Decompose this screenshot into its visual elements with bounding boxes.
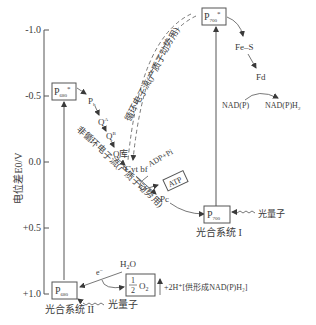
cyclic-flow-label: 循环电子流(产质子动势用): [122, 25, 181, 123]
tick-label: -0.5: [25, 90, 41, 101]
tick-label: +1.0: [23, 288, 41, 299]
p700-box: P700: [204, 206, 230, 223]
protons-label: +2H⁺[供形成NAD(P)H₂]: [164, 282, 248, 292]
p700-star-box: P700*: [202, 8, 226, 25]
adp-pi-label: ADP+Pi: [147, 147, 176, 169]
tick-label: 0.0: [29, 156, 42, 167]
half-o2-box: 1 2 O2: [126, 274, 155, 296]
p680-box: P680: [52, 282, 77, 299]
qb-label: QB: [106, 131, 117, 141]
y-axis-label: 电位差E0/V: [12, 152, 24, 204]
svg-text:1: 1: [131, 276, 135, 285]
electron-from-water-arrow: [80, 272, 122, 287]
h2o-label: H2O: [120, 259, 137, 270]
atp-box: ATP: [163, 171, 188, 191]
photon-label-ps1: 光量子: [258, 208, 285, 219]
z-scheme-diagram: -1.0 -0.5 0.0 +0.5 +1.0 电位差E0/V P680* P6…: [0, 0, 316, 325]
nadp-reduction-arrow: [245, 93, 278, 100]
photon-label-ps2: 光量子: [108, 298, 138, 310]
y-axis: -1.0 -0.5 0.0 +0.5 +1.0 电位差E0/V: [12, 24, 49, 299]
fd-label: Fd: [256, 72, 266, 82]
p680-star-box: P680*: [52, 83, 76, 100]
pc-to-p700-arrow: [170, 203, 204, 214]
o2-release-arrow: [102, 280, 124, 288]
svg-text:2: 2: [131, 286, 135, 295]
nadph2-label: NAD(P)H2: [265, 101, 301, 111]
ps1-label: 光合系统 I: [196, 226, 242, 238]
fe-s-label: Fe–S: [235, 42, 254, 52]
photon-wave-ps1: [237, 211, 255, 213]
electron-label: e−: [96, 267, 104, 277]
tick-label: +0.5: [23, 222, 41, 233]
qa-label: QA: [98, 117, 109, 127]
nadp-label: NAD(P): [222, 101, 249, 110]
tick-label: -1.0: [25, 24, 41, 35]
pheophytin-label: Ph: [88, 96, 96, 107]
